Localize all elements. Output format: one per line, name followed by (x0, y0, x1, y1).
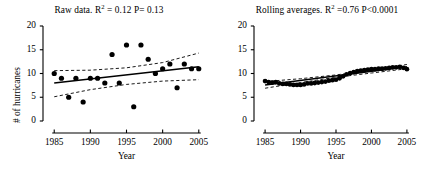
x-axis-title: Year (238, 151, 434, 161)
x-tick-label: 2000 (146, 138, 180, 147)
data-point (153, 71, 158, 76)
x-tick-label: 2005 (390, 138, 424, 147)
x-axis-title: Year (27, 151, 226, 161)
upper-confidence-limit (54, 53, 199, 71)
x-tick-label: 1990 (284, 138, 318, 147)
chart-panel-rolling-averages: Rolling averages. R2 =0.76 P<0.0001 0510… (218, 0, 436, 178)
data-point (124, 42, 129, 47)
data-point (174, 85, 179, 90)
x-tick-label: 1985 (248, 138, 282, 147)
data-point (81, 99, 86, 104)
y-tick-label: 5 (214, 92, 247, 101)
data-point (131, 104, 136, 109)
data-point (102, 80, 107, 85)
data-point (138, 42, 143, 47)
chart-panel-raw-data: Raw data. R2 = 0.12 P= 0.13 051015201985… (0, 0, 218, 178)
data-point (182, 61, 187, 66)
y-tick-label: 20 (3, 21, 36, 30)
data-point (146, 57, 151, 62)
x-tick-label: 1995 (110, 138, 144, 147)
y-tick-label: 15 (214, 45, 247, 54)
y-tick-label: 15 (3, 45, 36, 54)
data-point (109, 52, 114, 57)
data-point (95, 76, 100, 81)
data-point (52, 71, 57, 76)
data-point (66, 95, 71, 100)
data-point (405, 67, 410, 72)
data-point (73, 76, 78, 81)
data-point (59, 76, 64, 81)
data-point (196, 66, 201, 71)
x-tick-label: 2005 (182, 138, 216, 147)
x-tick-label: 1990 (73, 138, 107, 147)
data-point (167, 61, 172, 66)
data-point (189, 66, 194, 71)
x-tick-label: 1985 (37, 138, 71, 147)
data-point (160, 66, 165, 71)
figure-canvas: Raw data. R2 = 0.12 P= 0.13 051015201985… (0, 0, 436, 178)
y-tick-label: 10 (214, 69, 247, 78)
x-tick-label: 2000 (354, 138, 388, 147)
y-axis-title: # of hurricanes (12, 67, 22, 123)
y-tick-label: 20 (214, 21, 247, 30)
data-point (117, 80, 122, 85)
x-tick-label: 1995 (319, 138, 353, 147)
data-point (88, 76, 93, 81)
y-tick-label: 0 (214, 116, 247, 125)
